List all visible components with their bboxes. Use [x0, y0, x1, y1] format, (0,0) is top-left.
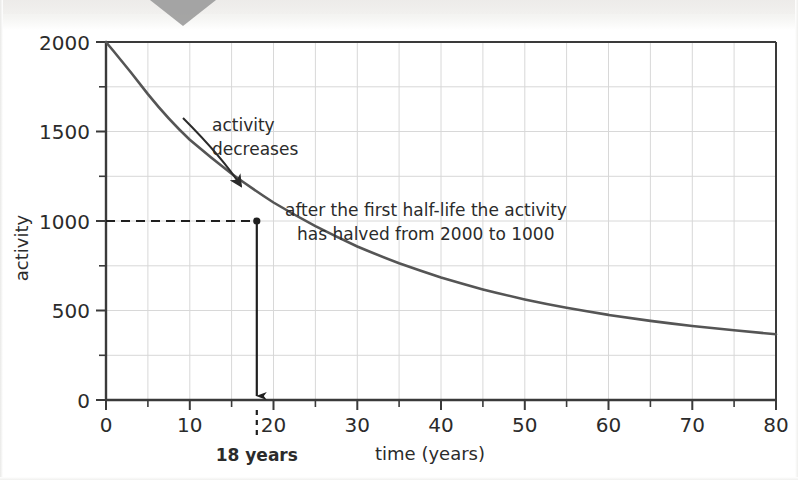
- y-tick-label: 0: [77, 389, 90, 413]
- y-tick-label: 1500: [39, 120, 90, 144]
- annotation-line: activity: [212, 115, 275, 135]
- x-tick-label: 30: [345, 413, 370, 437]
- y-axis-title: activity: [11, 214, 32, 281]
- x-tick-label: 50: [512, 413, 537, 437]
- y-axis-ticks: [96, 42, 106, 400]
- x-axis-title: time (years): [375, 443, 485, 464]
- x-axis-tick-labels: 0 10 20 30 40 50 60 70 80: [100, 413, 789, 437]
- chart-gridlines: [106, 42, 776, 400]
- y-tick-label: 1000: [39, 210, 90, 234]
- page-left-edge: [0, 0, 3, 480]
- x-tick-label: 80: [763, 413, 788, 437]
- half-life-point-marker: [253, 217, 260, 224]
- annotation-line: has halved from 2000 to 1000: [297, 224, 554, 244]
- x-tick-label: 70: [680, 413, 705, 437]
- x-tick-label: 40: [428, 413, 453, 437]
- y-axis-tick-labels: 0 500 1000 1500 2000: [39, 31, 90, 413]
- x-tick-label: 60: [596, 413, 621, 437]
- activity-decreases-annotation: activity decreases: [212, 115, 298, 159]
- x-tick-label: 0: [100, 413, 113, 437]
- x-axis-ticks: [106, 400, 776, 410]
- x-tick-label: 20: [261, 413, 286, 437]
- decay-chart: 0 10 20 30 40 50 60 70 80 0 500 1000 150…: [0, 0, 798, 480]
- y-tick-label: 500: [52, 299, 90, 323]
- x-tick-label: 10: [177, 413, 202, 437]
- annotation-line: after the first half-life the activity: [285, 200, 567, 220]
- half-life-axis-label: 18 years: [216, 445, 298, 465]
- y-tick-label: 2000: [39, 31, 90, 55]
- annotation-line: decreases: [212, 139, 298, 159]
- figure-root: 0 10 20 30 40 50 60 70 80 0 500 1000 150…: [0, 0, 798, 480]
